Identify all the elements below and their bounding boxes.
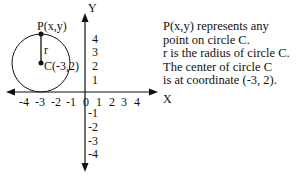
radius-label: r [44, 43, 48, 57]
x-tick: -4 [19, 95, 29, 109]
x-tick: 3 [121, 95, 127, 109]
y-tick: -4 [88, 147, 98, 161]
description-line: is at coordinate (-3, 2). [163, 74, 290, 88]
x-axis-right-arrow-icon [149, 89, 158, 96]
description-line: The center of circle C [163, 61, 290, 75]
x-tick: 2 [109, 95, 115, 109]
x-tick: -1 [66, 95, 76, 109]
description-line: point on circle C. [163, 34, 290, 48]
description-line: r is the radius of circle C. [163, 47, 290, 61]
center-point-c [39, 61, 44, 66]
y-tick: -3 [88, 134, 98, 148]
y-tick: 1 [92, 73, 98, 87]
y-tick: -1 [88, 106, 98, 120]
description-text: P(x,y) represents any point on circle C.… [163, 20, 290, 88]
y-tick: 4 [92, 32, 98, 46]
x-axis-left-arrow-icon [6, 89, 15, 96]
y-axis-down-arrow-icon [82, 163, 89, 172]
description-line: P(x,y) represents any [163, 20, 290, 34]
y-tick: 3 [92, 45, 98, 59]
x-tick: 4 [134, 95, 140, 109]
x-axis-label: X [163, 92, 172, 106]
center-label: C(-3,2) [44, 59, 79, 73]
y-tick: -2 [88, 120, 98, 134]
x-tick: -2 [51, 95, 61, 109]
x-tick: -3 [35, 95, 45, 109]
point-p-label: P(x,y) [37, 19, 67, 33]
y-axis-label: Y [88, 1, 97, 15]
y-tick: 2 [92, 59, 98, 73]
